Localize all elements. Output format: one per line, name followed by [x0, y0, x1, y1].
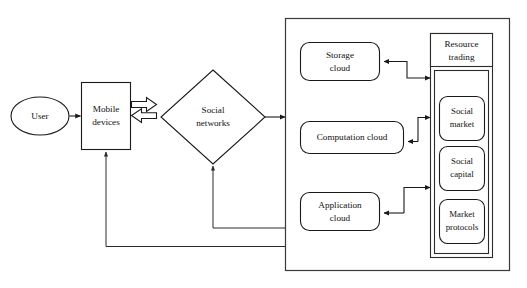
architecture-diagram: User Mobile devices Social networks Stor…	[0, 0, 527, 288]
edge-application-cloud-to-trading	[404, 188, 430, 214]
block-arrow-social-to-mobile	[132, 109, 157, 123]
storage-cloud-box	[301, 43, 380, 81]
node-computation-cloud: Computation cloud	[301, 122, 404, 154]
node-mobile-devices: Mobile devices	[82, 83, 131, 150]
social-market-label-line2: market	[450, 119, 475, 129]
node-social-networks: Social networks	[161, 70, 265, 164]
application-cloud-label-line1: Application	[318, 200, 362, 210]
social-capital-label-line1: Social	[451, 156, 474, 166]
node-social-capital: Social capital	[440, 147, 485, 191]
user-label: User	[31, 111, 48, 121]
edge-storage-cloud-to-trading	[407, 67, 430, 78]
computation-cloud-label-line1: Computation cloud	[317, 132, 388, 142]
application-cloud-label-line2: cloud	[330, 213, 351, 223]
mobile-devices-label-line2: devices	[92, 117, 120, 127]
edge-cloud-to-social-networks-feedback	[213, 166, 286, 228]
edge-cloud-to-mobile-devices-feedback	[106, 152, 286, 247]
social-market-label-line1: Social	[451, 106, 474, 116]
market-protocols-label-line1: Market	[449, 209, 475, 219]
node-application-cloud: Application cloud	[301, 193, 380, 231]
social-networks-label-line2: networks	[196, 118, 230, 128]
node-storage-cloud: Storage cloud	[301, 43, 380, 81]
social-networks-label-line1: Social	[202, 105, 225, 115]
node-social-market: Social market	[440, 97, 485, 141]
node-market-protocols: Market protocols	[440, 200, 485, 244]
edge-trading-to-storage-cloud	[384, 62, 407, 68]
social-networks-diamond	[161, 70, 265, 164]
application-cloud-box	[301, 193, 380, 231]
mobile-devices-label-line1: Mobile	[93, 104, 120, 114]
social-capital-label-line2: capital	[450, 169, 474, 179]
block-arrow-mobile-to-social	[132, 98, 157, 112]
market-protocols-label-line2: protocols	[446, 222, 479, 232]
storage-cloud-label-line2: cloud	[330, 63, 351, 73]
diagram-canvas: User Mobile devices Social networks Stor…	[0, 0, 527, 288]
node-user: User	[11, 97, 69, 135]
edge-computation-cloud-to-trading	[418, 118, 430, 142]
mobile-devices-box	[82, 83, 131, 150]
resource-trading-label-line1: Resource	[444, 39, 478, 49]
resource-trading-label-line2: trading	[448, 52, 474, 62]
storage-cloud-label-line1: Storage	[326, 50, 354, 60]
